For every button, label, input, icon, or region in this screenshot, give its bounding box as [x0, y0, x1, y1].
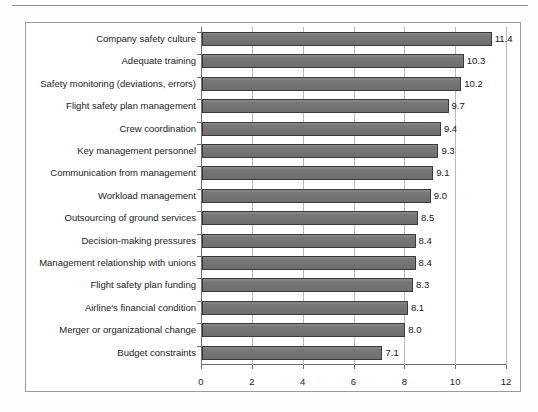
- category-tick-mark: [197, 54, 201, 55]
- bar-value-label: 9.4: [444, 122, 457, 136]
- bar-value-label: 8.5: [421, 211, 434, 225]
- category-label: Flight safety plan funding: [90, 278, 196, 292]
- category-tick-mark: [197, 323, 201, 324]
- bar: [202, 278, 413, 292]
- bar-row: 9.0: [201, 189, 506, 203]
- bar-value-label: 9.3: [441, 144, 454, 158]
- bar-row: 11.4: [201, 32, 506, 46]
- x-tick-label-0: 0: [198, 376, 203, 387]
- x-tick-label-6: 6: [351, 376, 356, 387]
- bar-value-label: 8.4: [419, 256, 432, 270]
- bar-series: 11.410.310.29.79.49.39.19.08.58.48.48.38…: [201, 27, 506, 365]
- bar: [202, 122, 441, 136]
- category-label: Key management personnel: [77, 144, 196, 158]
- category-tick-mark: [197, 234, 201, 235]
- category-tick-mark: [197, 278, 201, 279]
- category-axis-labels: Company safety cultureAdequate trainingS…: [26, 27, 196, 365]
- x-tick-label-12: 12: [501, 376, 512, 387]
- category-label: Company safety culture: [96, 32, 196, 46]
- bar-row: 9.3: [201, 144, 506, 158]
- category-tick-mark: [197, 189, 201, 190]
- category-label: Flight safety plan management: [66, 99, 196, 113]
- bar-row: 10.2: [201, 77, 506, 91]
- bar-row: 8.3: [201, 278, 506, 292]
- category-label: Airline's financial condition: [85, 301, 196, 315]
- bar-value-label: 8.0: [408, 323, 421, 337]
- bar: [202, 144, 438, 158]
- x-tick-mark-10: [455, 365, 456, 369]
- x-tick-label-10: 10: [450, 376, 461, 387]
- bar-value-label: 8.4: [419, 234, 432, 248]
- bar-value-label: 11.4: [495, 32, 513, 46]
- bar-value-label: 9.0: [434, 189, 447, 203]
- category-tick-mark: [197, 99, 201, 100]
- bar: [202, 99, 449, 113]
- gridline-12: [506, 27, 507, 365]
- bar-value-label: 9.7: [452, 99, 465, 113]
- category-label: Communication from management: [50, 166, 196, 180]
- bar-value-label: 9.1: [436, 166, 449, 180]
- category-tick-mark: [197, 256, 201, 257]
- bar: [202, 166, 433, 180]
- bar: [202, 189, 431, 203]
- x-tick-mark-4: [303, 365, 304, 369]
- category-tick-mark: [197, 144, 201, 145]
- category-label: Adequate training: [122, 54, 196, 68]
- category-label: Workload management: [98, 189, 196, 203]
- category-label: Merger or organizational change: [59, 323, 196, 337]
- bar: [202, 323, 405, 337]
- bar-row: 9.7: [201, 99, 506, 113]
- plot-area: 024681012 11.410.310.29.79.49.39.19.08.5…: [201, 27, 506, 365]
- bar: [202, 301, 408, 315]
- bar: [202, 77, 461, 91]
- page-top-rule: [12, 5, 528, 6]
- x-tick-mark-6: [354, 365, 355, 369]
- category-label: Crew coordination: [119, 122, 196, 136]
- category-tick-mark: [197, 32, 201, 33]
- bar-row: 10.3: [201, 54, 506, 68]
- bar: [202, 54, 464, 68]
- bar-value-label: 7.1: [385, 346, 398, 360]
- bar: [202, 211, 418, 225]
- bar: [202, 234, 416, 248]
- bar: [202, 346, 382, 360]
- bar: [202, 256, 416, 270]
- x-tick-label-4: 4: [300, 376, 305, 387]
- bar-row: 8.4: [201, 256, 506, 270]
- category-tick-mark: [197, 166, 201, 167]
- category-label: Management relationship with unions: [39, 256, 196, 270]
- category-tick-mark: [197, 301, 201, 302]
- bar-value-label: 8.3: [416, 278, 429, 292]
- bar-row: 7.1: [201, 346, 506, 360]
- chart-page: Company safety cultureAdequate trainingS…: [0, 0, 538, 412]
- bar-value-label: 8.1: [411, 301, 424, 315]
- bar-row: 9.4: [201, 122, 506, 136]
- bar: [202, 32, 492, 46]
- category-label: Outsourcing of ground services: [65, 211, 196, 225]
- x-tick-label-2: 2: [249, 376, 254, 387]
- category-tick-mark: [197, 77, 201, 78]
- x-tick-label-8: 8: [402, 376, 407, 387]
- bar-value-label: 10.2: [464, 77, 483, 91]
- x-tick-mark-8: [404, 365, 405, 369]
- bar-row: 8.4: [201, 234, 506, 248]
- category-label: Safety monitoring (deviations, errors): [40, 77, 196, 91]
- bar-row: 8.0: [201, 323, 506, 337]
- category-tick-mark: [197, 211, 201, 212]
- bar-value-label: 10.3: [467, 54, 486, 68]
- x-tick-mark-2: [252, 365, 253, 369]
- bar-row: 9.1: [201, 166, 506, 180]
- category-tick-mark: [197, 122, 201, 123]
- chart-frame: Company safety cultureAdequate trainingS…: [25, 22, 521, 392]
- category-label: Budget constraints: [117, 346, 196, 360]
- x-tick-mark-12: [506, 365, 507, 369]
- category-label: Decision-making pressures: [81, 234, 196, 248]
- bar-row: 8.1: [201, 301, 506, 315]
- x-tick-mark-0: [201, 365, 202, 369]
- category-tick-mark: [197, 346, 201, 347]
- bar-row: 8.5: [201, 211, 506, 225]
